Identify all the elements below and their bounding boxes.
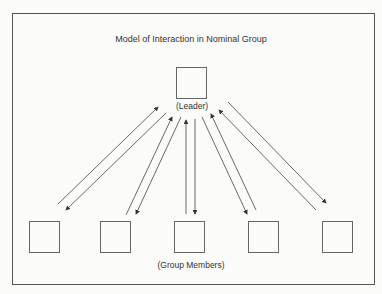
arrow-m5-to-leader — [219, 110, 316, 210]
arrow-m1-to-leader — [58, 107, 158, 204]
arrows-layer — [0, 0, 382, 294]
arrow-leader-to-m5 — [228, 102, 326, 203]
arrow-m4-to-leader — [211, 114, 256, 210]
arrow-leader-to-m2 — [136, 117, 181, 214]
